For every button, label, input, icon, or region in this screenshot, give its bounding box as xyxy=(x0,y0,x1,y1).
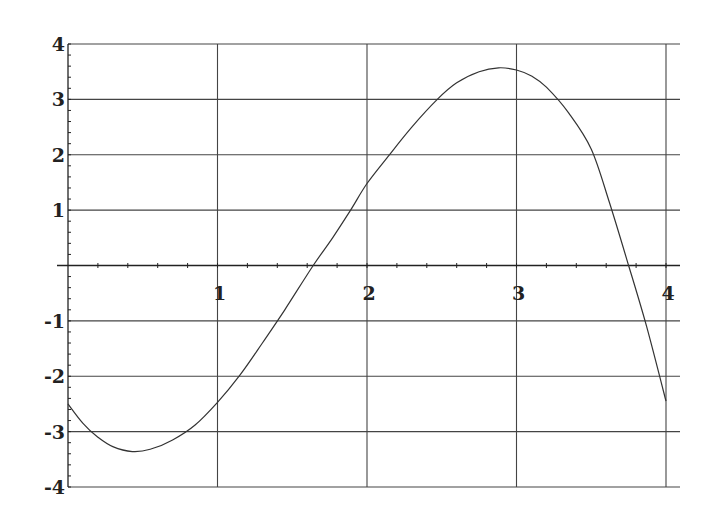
y-tick-label: -3 xyxy=(44,421,65,443)
y-tick-label: 3 xyxy=(52,88,65,110)
x-tick-label: 2 xyxy=(362,282,375,304)
y-tick-label: -2 xyxy=(44,365,65,387)
y-tick-label: -1 xyxy=(44,310,65,332)
y-tick-label: 2 xyxy=(52,144,65,166)
x-tick-label: 4 xyxy=(661,282,674,304)
y-tick-label: -4 xyxy=(44,476,65,498)
x-tick-label: 1 xyxy=(213,282,226,304)
line-chart: -4-3-2-112341234 xyxy=(0,0,715,526)
axes xyxy=(57,44,680,487)
x-tick-label: 3 xyxy=(512,282,525,304)
y-tick-label: 1 xyxy=(52,199,65,221)
y-tick-label: 4 xyxy=(52,33,65,55)
